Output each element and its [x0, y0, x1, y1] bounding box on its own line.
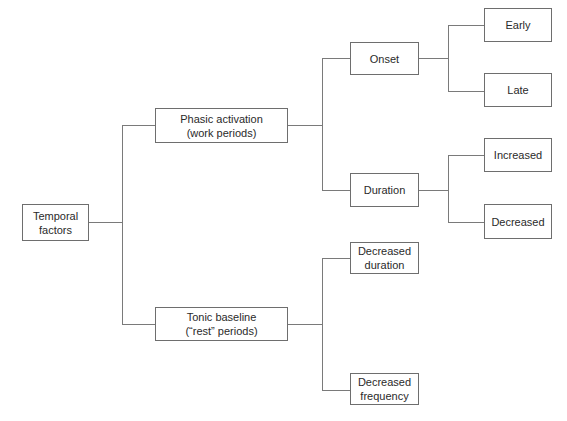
- tree-diagram: Temporal factors Phasic activation (work…: [0, 0, 567, 421]
- connector: [322, 190, 350, 191]
- connector: [288, 125, 322, 126]
- connector: [448, 25, 449, 91]
- node-decreased-duration: Decreased duration: [350, 242, 419, 274]
- node-phasic-activation: Phasic activation (work periods): [155, 108, 288, 143]
- node-duration: Duration: [350, 173, 419, 207]
- connector: [322, 390, 350, 391]
- connector: [448, 155, 449, 222]
- connector: [419, 190, 448, 191]
- connector: [448, 155, 484, 156]
- node-temporal-factors: Temporal factors: [22, 204, 89, 241]
- connector: [122, 125, 123, 324]
- connector: [322, 58, 323, 190]
- connector: [89, 222, 122, 223]
- node-late: Late: [484, 73, 552, 107]
- node-increased: Increased: [484, 138, 552, 172]
- connector: [122, 324, 155, 325]
- connector: [322, 58, 350, 59]
- connector: [448, 222, 484, 223]
- connector: [322, 258, 350, 259]
- connector: [322, 258, 323, 390]
- connector: [288, 324, 322, 325]
- connector: [122, 125, 155, 126]
- connector: [419, 58, 448, 59]
- node-tonic-baseline: Tonic baseline (“rest” periods): [155, 307, 288, 341]
- node-onset: Onset: [350, 42, 419, 75]
- connector: [448, 91, 484, 92]
- node-decreased-frequency: Decreased frequency: [350, 373, 419, 405]
- connector: [448, 25, 484, 26]
- node-decreased: Decreased: [484, 204, 552, 239]
- node-early: Early: [484, 8, 552, 42]
